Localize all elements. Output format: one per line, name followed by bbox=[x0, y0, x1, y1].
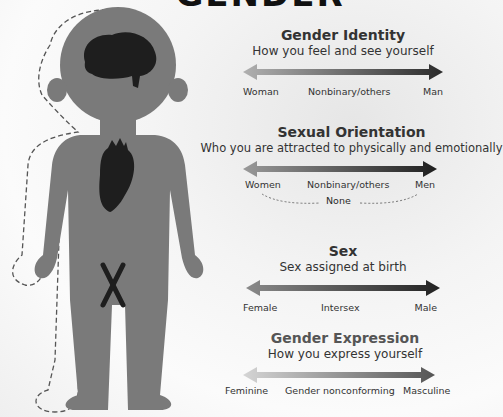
section-title: Sex bbox=[243, 243, 443, 259]
label-right: Man bbox=[423, 86, 443, 97]
spectrum-labels: Woman Nonbinary/others Man bbox=[243, 86, 443, 100]
section-title: Gender Identity bbox=[243, 27, 443, 43]
none-connector: None bbox=[260, 193, 420, 209]
spectrum-arrow bbox=[246, 280, 440, 296]
section-gender-identity: Gender Identity How you feel and see you… bbox=[243, 27, 443, 100]
label-right: Men bbox=[415, 179, 435, 190]
label-middle: Gender nonconforming bbox=[285, 385, 395, 396]
spectrum-arrow bbox=[243, 64, 443, 80]
label-middle: Nonbinary/others bbox=[308, 86, 390, 97]
section-subtitle: Who you are attracted to physically and … bbox=[200, 141, 503, 155]
section-gender-expression: Gender Expression How you express yourse… bbox=[225, 330, 465, 399]
spectrum-labels: Women Nonbinary/others Men bbox=[245, 179, 435, 193]
section-sex: Sex Sex assigned at birth Female Interse… bbox=[243, 243, 443, 316]
label-middle: Nonbinary/others bbox=[307, 179, 389, 190]
label-right: Masculine bbox=[403, 385, 450, 396]
label-left: Woman bbox=[243, 86, 279, 97]
section-title: Gender Expression bbox=[225, 330, 465, 346]
label-left: Female bbox=[243, 302, 277, 313]
spectrum-arrow bbox=[243, 161, 437, 177]
spectrum-labels: Feminine Gender nonconforming Masculine bbox=[225, 385, 465, 399]
label-middle: Intersex bbox=[321, 302, 360, 313]
spectrum-labels: Female Intersex Male bbox=[243, 302, 443, 316]
label-left: Feminine bbox=[225, 385, 268, 396]
section-title: Sexual Orientation bbox=[200, 124, 503, 140]
label-left: Women bbox=[245, 179, 281, 190]
label-right: Male bbox=[414, 302, 437, 313]
spectrum-arrow bbox=[243, 367, 435, 383]
label-none: None bbox=[326, 195, 351, 206]
section-subtitle: Sex assigned at birth bbox=[243, 260, 443, 274]
human-figure bbox=[0, 0, 230, 417]
section-subtitle: How you express yourself bbox=[225, 347, 465, 361]
section-sexual-orientation: Sexual Orientation Who you are attracted… bbox=[200, 124, 503, 209]
section-subtitle: How you feel and see yourself bbox=[243, 44, 443, 58]
